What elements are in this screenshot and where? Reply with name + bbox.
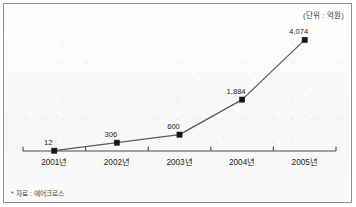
x-axis-category-labels: 2001년2002년2003년2004년2005년 [41, 157, 318, 167]
data-value-label: 12 [44, 138, 52, 147]
x-axis-label: 2004년 [229, 157, 255, 167]
line-chart-svg: 123066001,8844,074 2001년2002년2003년2004년2… [3, 3, 352, 203]
data-value-label: 4,074 [289, 27, 308, 36]
x-axis-label: 2003년 [166, 157, 192, 167]
chart-figure: (단위 : 억원) * 자료 : 에어크로스 123066001,8844,07… [0, 0, 356, 207]
x-axis-label: 2002년 [104, 157, 130, 167]
plot-area: 123066001,8844,074 2001년2002년2003년2004년2… [3, 3, 352, 203]
series-markers [52, 37, 308, 153]
data-value-label: 306 [105, 130, 118, 139]
data-value-label: 1,884 [227, 87, 246, 96]
x-axis-label: 2001년 [41, 157, 67, 167]
data-value-label: 600 [167, 122, 180, 131]
x-axis-label: 2005년 [292, 157, 318, 167]
data-value-labels: 123066001,8844,074 [44, 27, 308, 147]
